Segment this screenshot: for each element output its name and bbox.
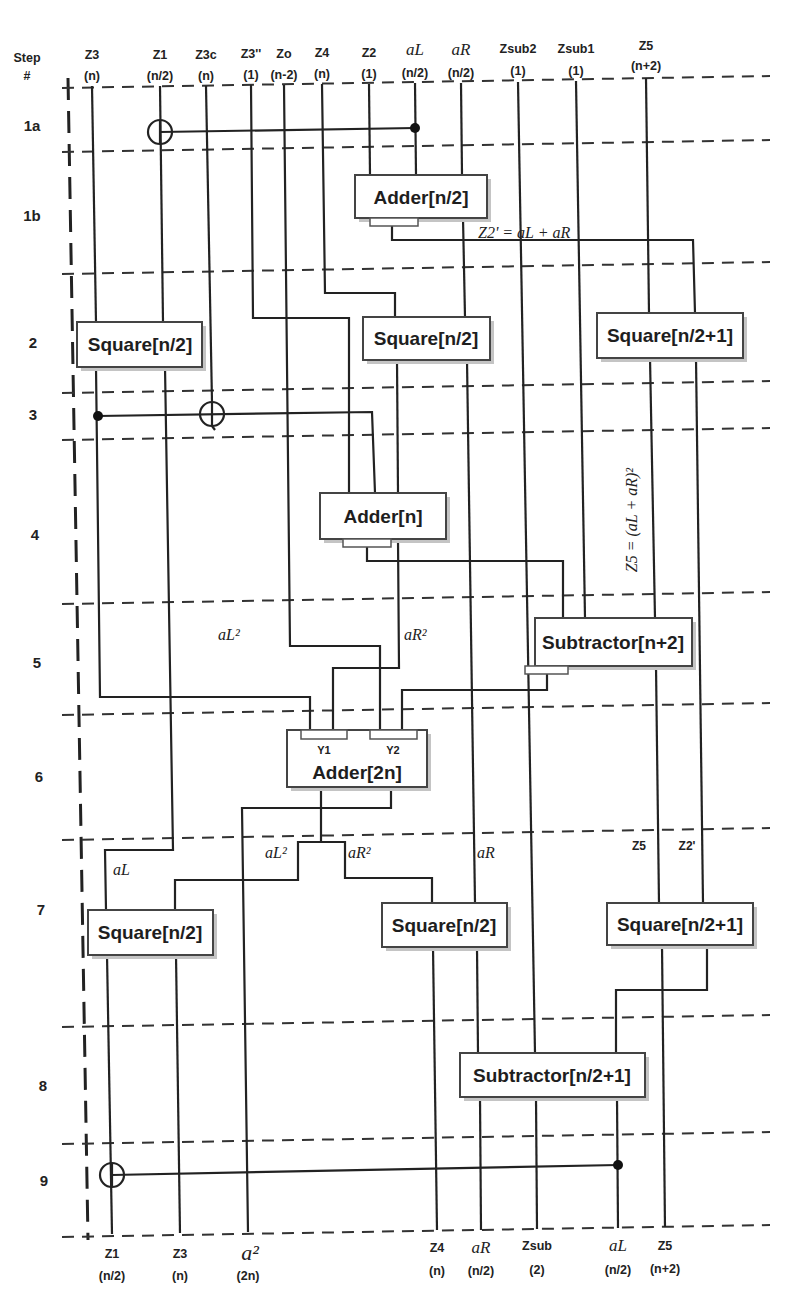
component-label: Square[n/2+1] — [607, 325, 733, 346]
port-label-y1: Y1 — [317, 744, 330, 756]
separator-2-3 — [62, 381, 770, 393]
output-tab — [343, 539, 391, 547]
input-size-z2: (1) — [361, 67, 376, 81]
input-size-z1: (n/2) — [147, 69, 173, 83]
wire-ar-mid — [463, 218, 465, 317]
annotation-al2-step5: aL² — [218, 626, 241, 643]
step-hash: # — [24, 69, 31, 83]
wire-z4-final — [433, 947, 437, 1230]
annotation-z5-step7: Z5 — [632, 839, 646, 853]
input-tab-y1 — [301, 730, 347, 739]
wire-s2-left-out2 — [105, 367, 173, 910]
input-label-z3: Z3 — [85, 48, 100, 62]
input-size-z3pp: (1) — [243, 68, 258, 82]
wire-ar-low — [467, 360, 475, 903]
output-size-z3: (n) — [172, 1269, 188, 1283]
component-square-s7-mid[interactable]: Square[n/2] — [382, 903, 511, 951]
output-label-z4: Z4 — [430, 1241, 445, 1255]
input-label-z3c: Z3c — [195, 48, 217, 62]
input-label-zsub2: Zsub2 — [500, 42, 537, 56]
input-size-al: (n/2) — [402, 66, 428, 80]
component-adder-2n[interactable]: Y1 Y2 Adder[2n] — [287, 730, 431, 791]
annotation-z2prime: Z2' = aL + aR — [478, 224, 571, 241]
step-label-9: 9 — [40, 1172, 48, 1189]
wire-z5-out — [662, 945, 665, 1227]
wire-step1a-cnot — [160, 128, 415, 132]
component-label: Adder[n/2] — [374, 187, 469, 208]
wire-z5-mid — [650, 358, 655, 618]
component-subtractor-half1[interactable]: Subtractor[n/2+1] — [460, 1053, 649, 1101]
input-size-zo: (n-2) — [270, 68, 297, 82]
separator-5-6 — [62, 703, 770, 715]
wire-z5-top — [646, 78, 649, 313]
wire-zsub-out — [536, 1097, 537, 1229]
component-label: Square[n/2] — [88, 334, 193, 355]
wire-z1-out — [107, 955, 112, 1234]
wire-step9-cnot — [112, 1165, 618, 1175]
input-size-z4: (n) — [314, 67, 330, 81]
step-label-6: 6 — [35, 768, 43, 785]
output-tab — [370, 218, 418, 226]
output-label-z1: Z1 — [105, 1247, 120, 1261]
component-adder-half[interactable]: Adder[n/2] — [355, 175, 491, 226]
wire-z2prime-mid — [696, 358, 703, 903]
input-label-zsub1: Zsub1 — [558, 42, 595, 56]
input-label-ar: aR — [452, 40, 472, 59]
component-square-s2-mid[interactable]: Square[n/2] — [363, 317, 494, 364]
output-label-z3: Z3 — [173, 1247, 188, 1261]
input-size-z3c: (n) — [198, 69, 214, 83]
annotation-ar2-step5: aR² — [404, 626, 428, 643]
wire-zsub1 — [576, 81, 585, 618]
step-label-7: 7 — [37, 901, 45, 918]
step-label-1a: 1a — [24, 117, 41, 134]
component-subtractor-n2[interactable]: Subtractor[n+2] — [525, 618, 696, 674]
step-header: Step — [13, 51, 40, 65]
output-size-z4: (n) — [429, 1264, 445, 1278]
output-size-z5: (n+2) — [650, 1262, 680, 1276]
wire-z3pp — [251, 85, 349, 493]
wire-z3 — [92, 86, 96, 322]
separator-bottom — [62, 1225, 770, 1237]
component-square-s7-right[interactable]: Square[n/2+1] — [607, 903, 757, 949]
wire-sub-n2-out — [402, 674, 547, 735]
component-adder-n[interactable]: Adder[n] — [320, 493, 450, 547]
component-square-s2-right[interactable]: Square[n/2+1] — [597, 313, 747, 362]
separator-6-7 — [62, 828, 770, 840]
annotation-ar-step7: aR — [477, 844, 495, 861]
wire-ar-out — [480, 1097, 481, 1230]
control-dot-step1a — [410, 123, 420, 133]
control-dot-step9 — [613, 1160, 623, 1170]
input-size-zsub2: (1) — [510, 64, 525, 78]
output-footers: Z1 (n/2) Z3 (n) a² (2n) Z4 (n) aR (n/2) … — [99, 1236, 680, 1283]
step-label-4: 4 — [31, 526, 40, 543]
input-label-al: aL — [406, 40, 424, 59]
step-axis-dashed — [68, 78, 88, 1240]
component-square-s7-left[interactable]: Square[n/2] — [88, 910, 217, 959]
output-size-a2: (2n) — [237, 1269, 260, 1283]
output-label-ar: aR — [472, 1238, 492, 1257]
output-label-zsub: Zsub — [522, 1239, 552, 1253]
component-label: Square[n/2] — [98, 922, 203, 943]
wire-ar-s7 — [477, 947, 478, 1053]
component-label: Adder[2n] — [312, 762, 402, 783]
component-square-s2-left[interactable]: Square[n/2] — [77, 322, 206, 371]
wire-ar-top — [461, 83, 462, 175]
output-label-a2: a² — [241, 1240, 259, 1265]
component-label: Subtractor[n/2+1] — [473, 1065, 631, 1086]
wire-adder2n-out-al2 — [175, 787, 321, 910]
wire-s2-mid-out — [333, 539, 399, 735]
input-size-z3: (n) — [84, 69, 100, 83]
control-dot-step3 — [93, 411, 103, 421]
input-label-z4: Z4 — [315, 46, 330, 60]
input-size-z5: (n+2) — [631, 59, 661, 73]
wire-z3c — [206, 86, 212, 402]
input-label-z2: Z2 — [362, 46, 377, 60]
annotation-z2p-step7: Z2' — [679, 839, 696, 853]
annotation-ar2-step7: aR² — [348, 844, 372, 861]
output-size-al: (n/2) — [605, 1263, 631, 1277]
component-label: Subtractor[n+2] — [542, 632, 684, 653]
wire-step3-cnot — [98, 412, 375, 493]
wire-adder2n-out-ar2 — [321, 842, 432, 903]
component-label: Square[n/2+1] — [617, 914, 743, 935]
input-label-zo: Zo — [276, 47, 292, 61]
